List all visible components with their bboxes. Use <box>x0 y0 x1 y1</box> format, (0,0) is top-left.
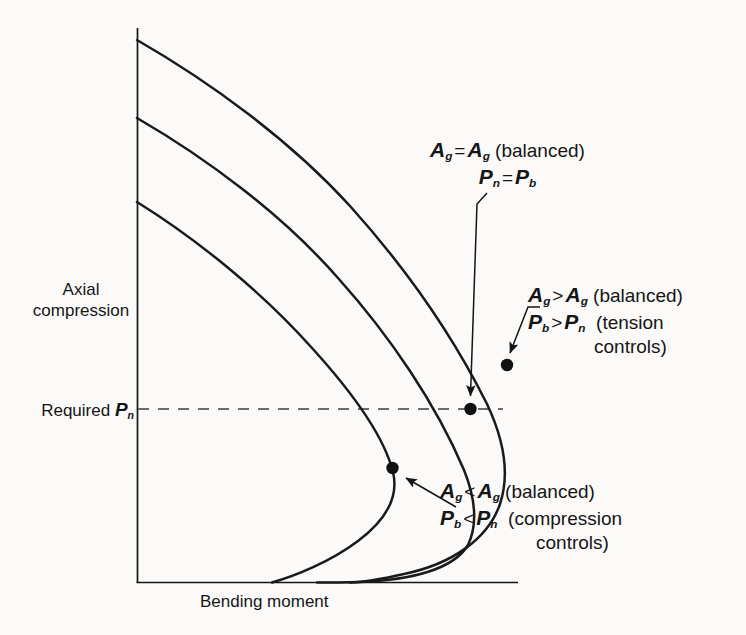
annot1-l1-rhs: A <box>565 283 580 306</box>
annot2-l1-rhs-sub: g <box>493 490 500 503</box>
y-axis-label-line2: compression <box>26 301 136 322</box>
required-pn-label: Required Pn <box>22 398 134 422</box>
annot0-l2-lhs-sub: n <box>493 176 500 189</box>
y-axis-label: Axial compression <box>26 280 136 321</box>
required-pn-text: Required <box>41 401 115 420</box>
annot2-l1-op: < <box>462 481 477 502</box>
annotation-compression-line3: controls) <box>440 531 622 554</box>
annot0-l1-lhs: A <box>430 138 445 161</box>
annotation-tension-line1: Ag>Ag (balanced) <box>528 282 683 309</box>
curve-balanced <box>137 118 474 583</box>
curve-compression-controls <box>137 202 394 583</box>
annotation-tension-line2: Pb>Pn (tension <box>528 309 683 336</box>
marker-point-balanced <box>464 403 476 415</box>
annot1-l2-lhs: P <box>528 310 542 333</box>
annot0-l2-lhs: P <box>479 165 493 188</box>
annot2-l1-lhs: A <box>440 479 455 502</box>
annot2-l1-note: (balanced) <box>505 481 595 502</box>
annotation-balanced-line2: Pn=Pb <box>430 164 585 191</box>
annot1-l2-rhs-sub: n <box>578 321 585 334</box>
annotation-balanced-line1: Ag=Ag (balanced) <box>430 137 585 164</box>
annotation-compression-controls: Ag<Ag (balanced) Pb<Pn (compression cont… <box>440 478 622 554</box>
marker-point-tension-controls <box>501 359 513 371</box>
annot0-l2-rhs-sub: b <box>529 176 536 189</box>
annot1-l1-op: > <box>550 285 565 306</box>
annotation-compression-line1: Ag<Ag (balanced) <box>440 478 622 505</box>
required-pn-variable: P <box>115 399 128 420</box>
marker-point-compression-controls <box>386 462 398 474</box>
leader-line-balanced <box>471 193 488 396</box>
annot1-l1-note: (balanced) <box>593 285 683 306</box>
annot2-l2-rhs-sub: n <box>490 517 497 530</box>
annot1-l2-rhs: P <box>564 310 578 333</box>
y-axis-label-line1: Axial <box>26 280 136 301</box>
annot1-l1-rhs-sub: g <box>581 294 588 307</box>
annot0-l1-note: (balanced) <box>495 140 585 161</box>
annot0-l1-rhs: A <box>467 138 482 161</box>
annotation-tension-line3: controls) <box>528 335 683 358</box>
annot0-l2-op: = <box>500 167 515 188</box>
annot2-l2-op: < <box>461 508 476 529</box>
annot2-l1-rhs: A <box>477 479 492 502</box>
x-axis-label: Bending moment <box>200 592 329 613</box>
interaction-diagram-figure: Axial compression Required Pn Bending mo… <box>0 0 746 635</box>
annotation-compression-line2: Pb<Pn (compression <box>440 505 622 532</box>
annot2-l2-rhs: P <box>476 506 490 529</box>
annot0-l1-rhs-sub: g <box>483 149 490 162</box>
annot2-l2-note: (compression <box>508 508 622 529</box>
annot1-l2-op: > <box>549 312 564 333</box>
annot1-l2-note: (tension <box>596 312 664 333</box>
annot1-l1-lhs: A <box>528 283 543 306</box>
annot0-l2-rhs: P <box>515 165 529 188</box>
annotation-tension-controls: Ag>Ag (balanced) Pb>Pn (tension controls… <box>528 282 683 358</box>
annotation-balanced: Ag=Ag (balanced) Pn=Pb <box>430 137 585 190</box>
annot0-l1-op: = <box>452 140 467 161</box>
annot2-l2-lhs: P <box>440 506 454 529</box>
required-pn-subscript: n <box>128 409 134 421</box>
